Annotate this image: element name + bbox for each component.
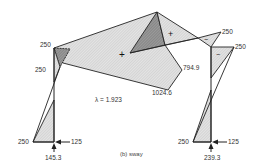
right-vertical-arrowhead-icon — [209, 143, 214, 149]
label-right-top-column: 250 — [235, 43, 246, 50]
left-vertical-arrowhead-icon — [52, 143, 57, 149]
label-beam-794: 794.9 — [183, 64, 200, 71]
left-column-lower-triangle — [33, 100, 54, 142]
label-left-top-corner: 250 — [40, 41, 51, 48]
label-right-base-horizontal: 125 — [228, 138, 239, 145]
figure-caption: (b) sway — [120, 151, 143, 157]
label-left-base-horizontal: 125 — [71, 138, 82, 145]
label-beam-1024: 1024.6 — [152, 89, 172, 96]
right-horizontal-arrowhead-icon — [212, 140, 218, 145]
left-horizontal-arrowhead-icon — [55, 140, 61, 145]
plus-sign-right: + — [168, 29, 173, 39]
label-left-base-vertical: 145.3 — [45, 154, 62, 161]
load-factor-label: λ = 1.923 — [95, 96, 122, 103]
bending-moment-diagram: + + − − 250 250 794.9 1024.6 λ = 1.923 2… — [0, 0, 256, 166]
label-right-base-moment: 250 — [178, 138, 189, 145]
minus-sign-column-top: − — [216, 51, 220, 58]
label-left-base-moment: 250 — [18, 138, 29, 145]
plus-sign-center: + — [119, 49, 125, 60]
minus-sign-beam-end: − — [204, 36, 208, 43]
label-right-top-beam: 250 — [222, 28, 233, 35]
right-beam-end-triangle — [198, 32, 221, 47]
label-left-column-upper: 250 — [35, 66, 46, 73]
right-column-lower-triangle — [193, 90, 211, 142]
label-right-base-vertical: 239.3 — [204, 154, 221, 161]
